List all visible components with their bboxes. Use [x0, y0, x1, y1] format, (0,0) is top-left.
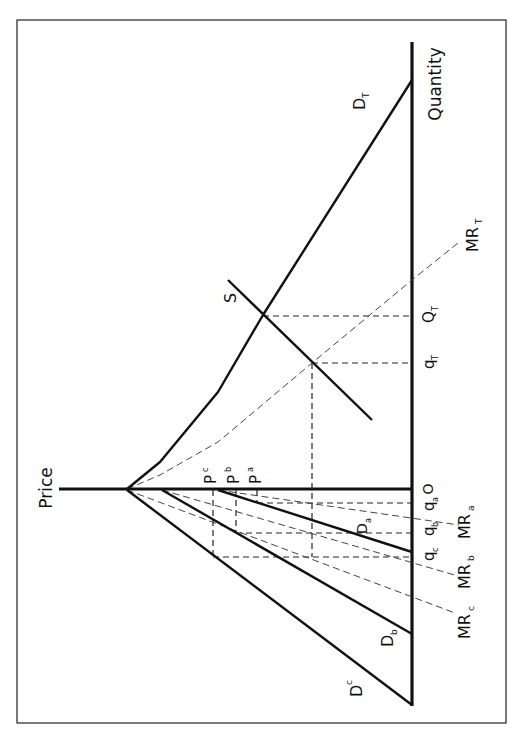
svg-text:c: c: [466, 606, 476, 611]
label-d-b: D b: [378, 629, 399, 647]
label-mr-b: MR b: [455, 555, 476, 589]
svg-text:a: a: [431, 497, 440, 502]
svg-text:a: a: [246, 467, 255, 472]
svg-text:D: D: [347, 685, 366, 697]
svg-text:T: T: [431, 306, 440, 312]
svg-text:MR: MR: [455, 614, 474, 639]
svg-text:T: T: [474, 218, 484, 225]
mr-c-curve: [127, 490, 455, 613]
svg-text:b: b: [389, 629, 399, 635]
svg-text:P: P: [247, 475, 265, 484]
svg-text:a: a: [364, 518, 373, 523]
price-axis-label: Price: [36, 467, 56, 508]
svg-text:D: D: [354, 523, 370, 534]
label-d-c: D c: [344, 680, 366, 697]
label-q-b: q b: [420, 522, 440, 536]
label-Q-total: Q T: [420, 306, 440, 323]
svg-text:T: T: [361, 92, 371, 99]
svg-text:D: D: [378, 635, 397, 647]
svg-text:T: T: [431, 355, 440, 361]
svg-text:b: b: [431, 522, 440, 527]
label-p-c: P c: [201, 468, 220, 484]
quantity-axis-label: Quantity: [425, 47, 445, 120]
label-mr-total: MR T: [463, 218, 484, 252]
svg-text:Q: Q: [420, 311, 438, 323]
svg-text:P: P: [225, 475, 243, 484]
label-p-a: P a: [246, 467, 265, 484]
figure-border: [17, 20, 506, 723]
svg-text:c: c: [344, 680, 354, 685]
label-supply: S: [221, 293, 240, 303]
label-q-total: q T: [420, 355, 440, 369]
svg-text:MR: MR: [455, 564, 474, 589]
label-mr-a: MR a: [455, 505, 476, 539]
label-q-a: q a: [420, 497, 440, 511]
svg-text:D: D: [350, 98, 369, 110]
demand-total-curve: [127, 80, 412, 489]
svg-text:b: b: [224, 467, 233, 472]
svg-text:P: P: [202, 475, 220, 484]
price-discrimination-diagram: Price Quantity O D T MR T S Q T q T q a: [0, 0, 524, 737]
label-d-total: D T: [350, 92, 371, 110]
svg-text:c: c: [201, 468, 210, 472]
supply-curve: [228, 280, 372, 420]
origin-label: O: [420, 483, 436, 494]
svg-text:MR: MR: [463, 227, 482, 252]
svg-text:MR: MR: [455, 514, 474, 539]
svg-text:a: a: [466, 505, 476, 511]
label-q-c: q c: [420, 548, 440, 561]
svg-text:c: c: [431, 548, 440, 552]
demand-a-curve: [218, 490, 412, 552]
label-mr-c: MR c: [455, 606, 476, 639]
mr-total-curve: [127, 243, 458, 489]
label-p-b: P b: [224, 467, 243, 484]
svg-text:b: b: [466, 555, 476, 561]
label-d-a: D a: [354, 518, 373, 534]
